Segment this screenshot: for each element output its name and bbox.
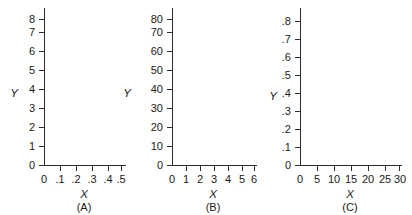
- figure-container: 0 1 2 3 4 5 6 7 8 0 .1 .2 .3 .4 .5: [0, 0, 412, 215]
- panel-a-xtick-label: .3: [87, 173, 96, 185]
- panel-c: 0 .1 .2 .3 .4 .5 .6 .7 .8 0 5 10 15 20 2…: [269, 8, 406, 213]
- panel-c-xtick-label: 10: [328, 173, 340, 185]
- panel-c-ytick-label: .1: [282, 141, 291, 153]
- panel-a-x-ticks: [61, 166, 122, 172]
- panel-b-xtick-label: 1: [183, 173, 189, 185]
- panel-b-ytick-label: 20: [151, 121, 163, 133]
- panel-c-ytick-label: .3: [282, 105, 291, 117]
- panel-b-y-ticks: [167, 20, 173, 166]
- panel-c-ytick-label: .4: [282, 87, 291, 99]
- panel-b-xtick-label: 0: [169, 173, 175, 185]
- panel-a-ytick-label: 8: [29, 13, 35, 25]
- panel-a-ytick-label: 7: [29, 26, 35, 38]
- panel-c-x-ticks: [318, 166, 400, 172]
- panel-c-xtick-label: 30: [394, 173, 406, 185]
- panel-c-y-ticks: [295, 22, 301, 166]
- panel-c-ytick-label: .8: [282, 15, 291, 27]
- panel-b-xtick-label: 6: [251, 173, 257, 185]
- panel-a-xtick-label: .5: [116, 173, 125, 185]
- three-panel-axes-figure: 0 1 2 3 4 5 6 7 8 0 .1 .2 .3 .4 .5: [0, 0, 412, 215]
- panel-b-y-axis-title: Y: [123, 87, 132, 99]
- panel-c-ytick-label: .2: [282, 123, 291, 135]
- panel-a-y-axis-title: Y: [10, 87, 19, 99]
- panel-a-ytick-label: 1: [29, 140, 35, 152]
- panel-a-axis-lines: [45, 8, 127, 166]
- panel-a-xtick-label: .1: [55, 173, 64, 185]
- panel-a-ytick-label: 0: [29, 159, 35, 171]
- panel-a-ytick-label: 6: [29, 45, 35, 57]
- panel-c-x-axis-title: X: [345, 188, 355, 200]
- panel-a-xtick-label: .2: [71, 173, 80, 185]
- panel-a: 0 1 2 3 4 5 6 7 8 0 .1 .2 .3 .4 .5: [10, 8, 126, 213]
- panel-b-ytick-label: 30: [151, 102, 163, 114]
- panel-b: 0 10 20 30 40 50 60 70 80 0 1 2 3 4 5 6: [123, 8, 257, 213]
- panel-c-ytick-label: .6: [282, 51, 291, 63]
- panel-c-xtick-label: 5: [314, 173, 320, 185]
- panel-b-ytick-label: 10: [151, 140, 163, 152]
- panel-b-ytick-label: 60: [151, 45, 163, 57]
- panel-c-xtick-label: 20: [362, 173, 374, 185]
- panel-a-y-ticks: [39, 20, 45, 166]
- panel-b-xtick-label: 5: [239, 173, 245, 185]
- panel-c-axis-lines: [301, 8, 403, 166]
- panel-a-ytick-label: 3: [29, 102, 35, 114]
- panel-c-xtick-label: 25: [379, 173, 391, 185]
- panel-a-xtick-label: 0: [41, 173, 47, 185]
- panel-a-x-axis-title: X: [79, 188, 89, 200]
- panel-c-caption: (C): [342, 201, 357, 213]
- panel-a-xtick-label: .4: [103, 173, 112, 185]
- panel-b-x-ticks: [187, 166, 255, 172]
- panel-b-ytick-label: 80: [151, 13, 163, 25]
- panel-a-ytick-label: 5: [29, 64, 35, 76]
- panel-b-xtick-label: 2: [197, 173, 203, 185]
- panel-b-xtick-label: 3: [211, 173, 217, 185]
- panel-b-ytick-label: 40: [151, 83, 163, 95]
- panel-b-ytick-label: 0: [157, 159, 163, 171]
- panel-b-axis-lines: [173, 8, 258, 166]
- panel-b-ytick-label: 50: [151, 64, 163, 76]
- panel-a-caption: (A): [77, 201, 92, 213]
- panel-c-y-axis-title: Y: [269, 90, 278, 102]
- panel-c-ytick-label: 0: [285, 159, 291, 171]
- panel-a-ytick-label: 2: [29, 121, 35, 133]
- panel-c-ytick-label: .5: [282, 69, 291, 81]
- panel-a-ytick-label: 4: [29, 83, 35, 95]
- panel-b-ytick-label: 70: [151, 26, 163, 38]
- panel-c-xtick-label: 15: [345, 173, 357, 185]
- panel-b-x-axis-title: X: [208, 188, 218, 200]
- panel-b-xtick-label: 4: [225, 173, 231, 185]
- panel-c-xtick-label: 0: [297, 173, 303, 185]
- panel-c-ytick-label: .7: [282, 33, 291, 45]
- panel-b-caption: (B): [206, 201, 221, 213]
